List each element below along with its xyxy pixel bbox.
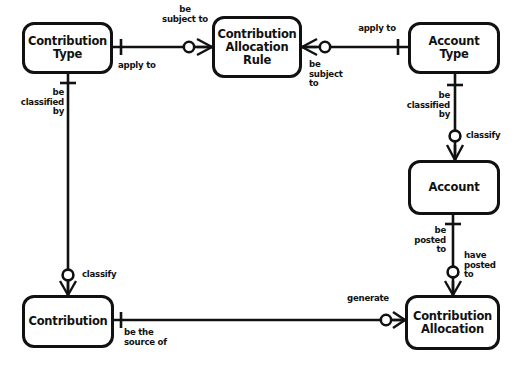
relationship-label-have-posted-to: have posted to — [464, 251, 512, 280]
relationship-label-be-classified-by-left: be classified by — [2, 88, 64, 117]
entity-contribution-allocation-rule[interactable]: Contribution Allocation Rule — [212, 16, 302, 78]
relationship-label-be-classified-by-right: be classified by — [388, 91, 450, 120]
cardinality-many-crowsfoot-contribution-callocation — [393, 312, 405, 328]
relationship-label-be-subject-to-top: be subject to — [149, 5, 221, 24]
entity-label-contribution-allocation: Contribution Allocation — [410, 310, 495, 336]
entity-account-type[interactable]: Account Type — [408, 22, 500, 74]
entity-label-account-type: Account Type — [426, 35, 483, 61]
entity-contribution[interactable]: Contribution — [22, 295, 114, 348]
entity-label-contribution-type: Contribution Type — [25, 35, 110, 61]
cardinality-many-crowsfoot-atype-account — [447, 145, 463, 160]
relationship-label-be-posted-to: be posted to — [392, 226, 446, 255]
relationship-label-be-subject-to-right: be subject to — [309, 60, 357, 89]
cardinality-many-crowsfoot-ctype-rule — [197, 39, 212, 55]
cardinality-many-crowsfoot-ctype-contribution — [60, 281, 76, 295]
entity-label-contribution: Contribution — [25, 315, 110, 328]
er-diagram-canvas: Contribution Type Contribution Allocatio… — [0, 0, 514, 375]
cardinality-optional-circle-contribution-callocation — [381, 315, 391, 325]
relationship-label-generate: generate — [341, 294, 395, 304]
entity-label-contribution-allocation-rule: Contribution Allocation Rule — [214, 28, 299, 67]
relationship-label-classify-left: classify — [82, 270, 128, 280]
relationship-label-classify-right: classify — [466, 131, 512, 141]
entity-contribution-allocation[interactable]: Contribution Allocation — [405, 295, 500, 350]
relationship-label-apply-to-left: apply to — [118, 61, 178, 71]
entity-contribution-type[interactable]: Contribution Type — [22, 22, 113, 74]
cardinality-optional-circle-ctype-rule — [184, 42, 194, 52]
cardinality-optional-circle-atype-account — [450, 131, 461, 142]
cardinality-optional-circle-rule-atype — [320, 42, 330, 52]
entity-account[interactable]: Account — [408, 160, 500, 215]
cardinality-many-crowsfoot-account-callocation — [445, 281, 461, 295]
entity-label-account: Account — [426, 181, 483, 194]
relationship-label-apply-to-right: apply to — [348, 24, 406, 34]
cardinality-optional-circle-account-callocation — [448, 267, 459, 278]
cardinality-many-crowsfoot-rule-atype — [302, 39, 317, 55]
relationship-label-be-the-source-of: be the source of — [124, 328, 186, 347]
cardinality-optional-circle-ctype-contribution — [63, 270, 74, 281]
